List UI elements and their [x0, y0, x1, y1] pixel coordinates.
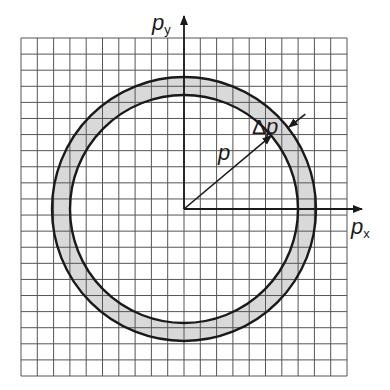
delta-p-arrow — [289, 114, 306, 127]
diagram-canvas: py px p Δp — [0, 0, 390, 390]
py-axis-label: py — [151, 10, 171, 37]
px-axis-label: px — [350, 214, 370, 241]
p-vector-label: p — [217, 140, 230, 165]
momentum-shell-diagram: py px p Δp — [0, 0, 390, 390]
delta-p-label: Δp — [252, 114, 278, 139]
